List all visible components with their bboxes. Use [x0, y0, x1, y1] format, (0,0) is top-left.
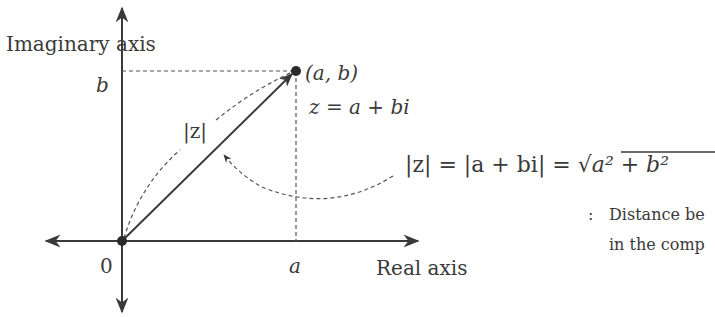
real-axis-label: Real axis: [376, 256, 467, 280]
z-equation-label: z = a + bi: [308, 95, 410, 119]
modulus-brace-arc-lower: [124, 150, 180, 238]
point-label: (a, b): [305, 61, 358, 85]
origin-point: [117, 236, 127, 246]
a-tick-label: a: [289, 254, 301, 278]
formula-radicand: a² + b²: [592, 152, 669, 177]
description-line-1: Distance be: [609, 205, 705, 224]
b-tick-label: b: [96, 73, 109, 97]
modulus-brace-arc-upper: [216, 72, 292, 120]
description-bullet: :: [588, 205, 593, 224]
z-point: [291, 66, 301, 76]
formula-pointer-arrow: [224, 155, 393, 199]
origin-label: 0: [100, 254, 113, 278]
modulus-formula: |z| = |a + bi| = √a² + b²: [405, 152, 669, 178]
formula-lhs: |z| = |a + bi| =: [405, 152, 578, 178]
modulus-label: |z|: [183, 119, 207, 144]
description-line-2: in the comp: [609, 235, 705, 254]
modulus-vector: [122, 74, 292, 241]
complex-plane-diagram: Imaginary axis b 0 a Real axis (a, b) z …: [0, 0, 715, 317]
sqrt-symbol: √: [578, 152, 593, 177]
imaginary-axis-label: Imaginary axis: [6, 32, 156, 56]
